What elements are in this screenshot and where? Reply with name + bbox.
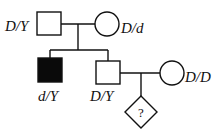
child-unknown-label: ?: [138, 105, 144, 120]
pedigree-chart: D/Y D/d d/Y D/Y D/D ?: [0, 0, 220, 135]
unaffected-son-genotype-label: D/Y: [89, 88, 115, 104]
affected-son-square: [38, 58, 62, 82]
father-square: [37, 12, 61, 35]
spouse-genotype-label: D/D: [184, 69, 211, 85]
mother-circle: [95, 12, 119, 36]
mother-genotype-label: D/d: [120, 20, 144, 36]
father-genotype-label: D/Y: [4, 18, 30, 34]
unaffected-son-square: [96, 61, 120, 84]
spouse-circle: [160, 61, 184, 85]
affected-son-genotype-label: d/Y: [38, 88, 60, 104]
